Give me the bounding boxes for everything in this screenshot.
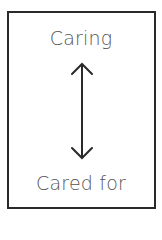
- cared-for-label: Cared for: [0, 172, 162, 194]
- caring-label: Caring: [0, 27, 162, 49]
- double-headed-arrow-icon: [71, 62, 93, 160]
